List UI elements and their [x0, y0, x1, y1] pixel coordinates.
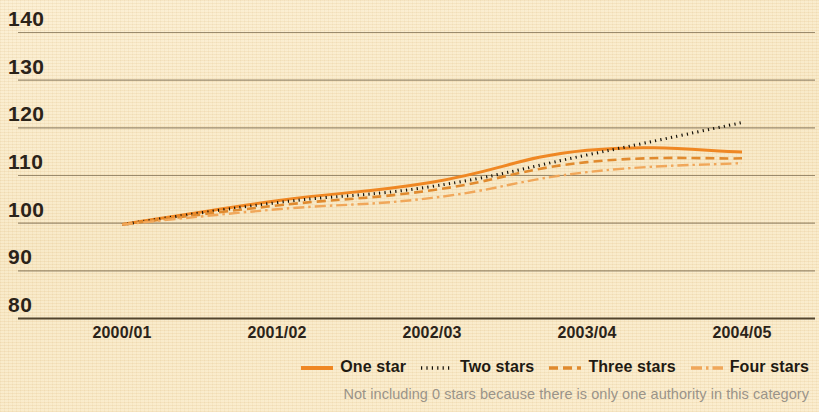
legend-line-swatch-icon — [300, 360, 334, 374]
legend-label: Four stars — [730, 358, 809, 376]
legend-item-three-stars[interactable]: Three stars — [548, 358, 675, 376]
legend-label: Two stars — [460, 358, 534, 376]
x-axis-tick-label: 2004/05 — [712, 324, 771, 342]
x-axis-tick-label: 2001/02 — [247, 324, 306, 342]
y-axis-tick-label: 90 — [8, 246, 32, 267]
chart-legend: One starTwo starsThree starsFour stars — [300, 358, 809, 376]
chart-container: 1401301201101009080 2000/012001/022002/0… — [0, 0, 819, 412]
y-axis-tick-label: 120 — [8, 103, 45, 124]
y-axis-tick-label: 80 — [8, 294, 32, 315]
legend-line-swatch-icon — [690, 360, 724, 374]
chart-plot-area — [0, 0, 819, 412]
x-axis-tick-label: 2000/01 — [92, 324, 151, 342]
legend-item-two-stars[interactable]: Two stars — [420, 358, 534, 376]
series-line-one-star — [122, 148, 742, 225]
legend-line-swatch-icon — [420, 360, 454, 374]
legend-label: One star — [340, 358, 406, 376]
chart-footnote: Not including 0 stars because there is o… — [343, 386, 809, 402]
y-axis-tick-label: 110 — [8, 151, 43, 172]
gridlines-group — [18, 33, 815, 319]
y-axis-tick-label: 100 — [8, 199, 45, 220]
series-line-four-stars — [122, 163, 742, 224]
legend-label: Three stars — [588, 358, 675, 376]
y-axis-tick-label: 140 — [8, 8, 45, 29]
x-axis-tick-label: 2002/03 — [402, 324, 461, 342]
x-axis-tick-label: 2003/04 — [557, 324, 616, 342]
y-axis-tick-label: 130 — [8, 56, 45, 77]
legend-line-swatch-icon — [548, 360, 582, 374]
legend-item-four-stars[interactable]: Four stars — [690, 358, 809, 376]
series-lines-group — [122, 123, 742, 225]
legend-item-one-star[interactable]: One star — [300, 358, 406, 376]
